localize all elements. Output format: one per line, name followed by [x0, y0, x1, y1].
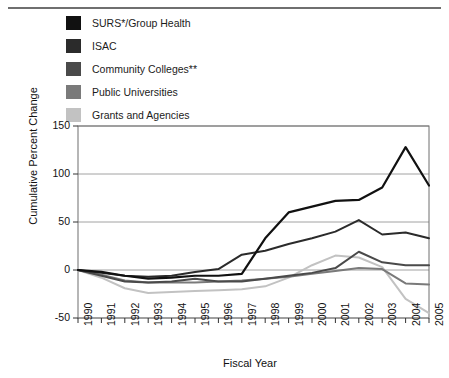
x-tick-label: 1998	[269, 303, 281, 326]
y-tick-label: 100	[36, 167, 70, 179]
x-tick-label: 2005	[433, 303, 445, 326]
chart-plot-area: Cumulative Percent Change Fiscal Year 15…	[0, 0, 449, 378]
y-tick-label: 0	[36, 263, 70, 275]
x-tick-label: 2002	[363, 303, 375, 326]
y-tick-label: 50	[36, 215, 70, 227]
x-tick-label: 2003	[386, 303, 398, 326]
x-tick-label: 1990	[82, 303, 94, 326]
x-tick-label: 1997	[246, 303, 258, 326]
x-tick-label: 1994	[176, 303, 188, 326]
y-tick-label: 150	[36, 119, 70, 131]
x-tick-label: 2001	[339, 303, 351, 326]
x-tick-label: 1995	[199, 303, 211, 326]
x-tick-label: 1991	[105, 303, 117, 326]
x-tick-label: 2000	[316, 303, 328, 326]
x-tick-label: 1993	[152, 303, 164, 326]
x-tick-label: 1992	[129, 303, 141, 326]
x-tick-label: 1999	[293, 303, 305, 326]
y-tick-label: -50	[36, 311, 70, 323]
x-tick-label: 1996	[222, 303, 234, 326]
x-tick-label: 2004	[410, 303, 422, 326]
x-axis-title: Fiscal Year	[70, 357, 430, 369]
